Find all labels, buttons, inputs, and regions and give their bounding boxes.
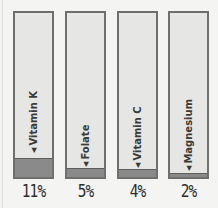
bar-label-text: Vitamin C	[132, 106, 143, 160]
fill-edge	[15, 158, 52, 159]
fill-edge	[67, 168, 104, 169]
bar-label: ◀ Magnesium	[183, 99, 194, 171]
arrow-left-icon: ◀	[81, 162, 89, 167]
bar-magnesium: ◀ Magnesium	[168, 11, 209, 179]
value-label: 11%	[16, 181, 51, 201]
bar-fill	[67, 169, 104, 177]
value-label: 2%	[171, 181, 206, 201]
left-border	[2, 0, 3, 208]
bar-label-text: Vitamin K	[28, 91, 39, 146]
bar-label: ◀ Vitamin K	[28, 91, 39, 153]
arrow-left-icon: ◀	[133, 163, 141, 168]
fill-edge	[170, 173, 207, 174]
fill-edge	[119, 169, 156, 170]
bar-label-text: Magnesium	[183, 99, 194, 164]
bar-label: ◀ Vitamin C	[132, 106, 143, 168]
bar-label-text: Folate	[80, 125, 91, 160]
bar-folate: ◀ Folate	[65, 11, 106, 179]
bar-vitamin-k: ◀ Vitamin K	[13, 11, 54, 179]
arrow-left-icon: ◀	[184, 166, 192, 171]
value-label: 5%	[68, 181, 103, 201]
bar-label: ◀ Folate	[80, 125, 91, 167]
value-label: 4%	[120, 181, 155, 201]
bar-fill	[170, 174, 207, 177]
arrow-left-icon: ◀	[29, 148, 37, 153]
bar-vitamin-c: ◀ Vitamin C	[117, 11, 158, 179]
bar-fill	[119, 170, 156, 177]
bar-fill	[15, 159, 52, 177]
